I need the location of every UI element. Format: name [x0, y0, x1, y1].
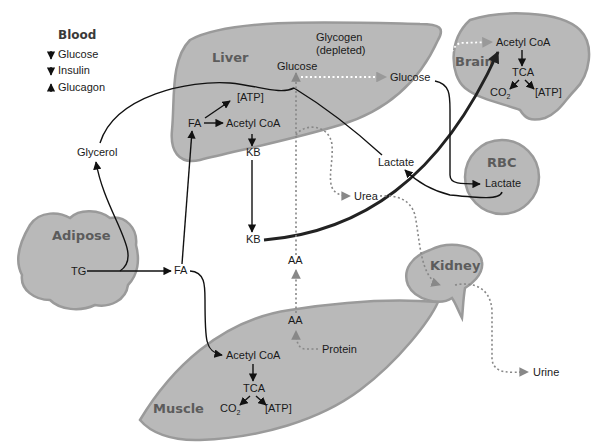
- svg-text:Glucagon: Glucagon: [58, 81, 105, 93]
- blood-fa: FA: [174, 264, 188, 276]
- muscle-acetyl-coa: Acetyl CoA: [226, 349, 281, 361]
- rbc-lactate: Lactate: [485, 177, 521, 189]
- liver-fa: FA: [188, 117, 202, 129]
- muscle-aa: AA: [288, 314, 303, 326]
- adipose-tg: TG: [71, 265, 86, 277]
- liver-glucose: Glucose: [277, 60, 317, 72]
- blood-lactate: Lactate: [378, 156, 414, 168]
- muscle-label: Muscle: [153, 401, 204, 416]
- adipose-shape: [18, 211, 138, 309]
- liver-label: Liver: [212, 50, 249, 65]
- liver-acetyl-coa: Acetyl CoA: [226, 117, 281, 129]
- muscle-protein: Protein: [322, 343, 357, 355]
- muscle-atp: [ATP]: [265, 402, 292, 414]
- blood-kb: KB: [246, 233, 261, 245]
- legend-title: Blood: [58, 28, 96, 42]
- brain-atp: [ATP]: [535, 86, 562, 98]
- blood-urine: Urine: [533, 366, 559, 378]
- liver-shape: [172, 22, 441, 161]
- brain-label: Brain: [455, 54, 494, 69]
- svg-text:Insulin: Insulin: [58, 64, 90, 76]
- rbc-label: RBC: [487, 155, 516, 170]
- blood-urea: Urea: [354, 190, 379, 202]
- kidney-label: Kidney: [430, 258, 481, 273]
- brain-acetyl-coa: Acetyl CoA: [496, 36, 551, 48]
- blood-glycerol: Glycerol: [77, 146, 117, 158]
- brain-tca: TCA: [512, 66, 535, 78]
- liver-atp: [ATP]: [237, 91, 264, 103]
- legend-item-glucose: Glucose: [51, 48, 98, 60]
- liver-glycogen-state: (depleted): [316, 44, 366, 56]
- liver-glycogen: Glycogen: [316, 31, 362, 43]
- muscle-tca: TCA: [243, 382, 266, 394]
- adipose-label: Adipose: [52, 228, 111, 243]
- svg-text:Glucose: Glucose: [58, 48, 98, 60]
- liver-kb: KB: [246, 146, 261, 158]
- blood-glucose: Glucose: [390, 71, 430, 83]
- arrow-liver-urea: [296, 127, 350, 196]
- metabolism-diagram: Blood Glucose Insulin Glucagon Liver Bra…: [0, 0, 592, 448]
- legend-item-glucagon: Glucagon: [51, 81, 105, 93]
- legend-item-insulin: Insulin: [51, 64, 90, 76]
- blood-aa: AA: [288, 254, 303, 266]
- arrow-kidney-urine: [455, 284, 528, 372]
